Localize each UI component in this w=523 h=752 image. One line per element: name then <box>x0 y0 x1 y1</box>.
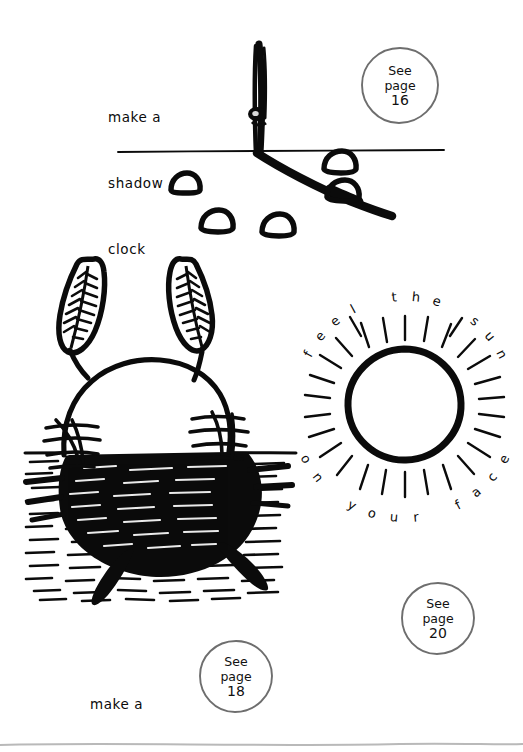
badge-see-label: See <box>224 654 247 669</box>
sun-caption-letter: u <box>389 510 399 526</box>
shadow-clock-label-line3: clock <box>108 238 163 260</box>
page-canvas: make a shadow clock make a shadow sculpt… <box>0 0 523 752</box>
stone-icon <box>201 210 233 232</box>
stone-icon <box>171 173 200 193</box>
horizon-line <box>118 150 444 152</box>
stick-icon <box>248 44 266 153</box>
badge-page-number: 18 <box>227 684 245 699</box>
stone-icon <box>262 214 294 236</box>
badge-page-label: page <box>220 669 251 684</box>
shadow-sculpture-illustration <box>25 259 296 605</box>
shadow-clock-label: make a shadow clock <box>108 62 163 304</box>
badge-page-label: page <box>422 611 453 626</box>
stone-icon <box>324 151 356 173</box>
shadow-sculpture-label: make a shadow sculpture <box>90 637 158 752</box>
page-edge-line <box>0 744 523 745</box>
badge-see-label: See <box>388 63 411 78</box>
shadow-clock-label-line2: shadow <box>108 172 163 194</box>
see-page-18-badge[interactable]: See page 18 <box>200 640 272 712</box>
badge-see-label: See <box>426 596 449 611</box>
badge-page-number: 20 <box>429 626 447 641</box>
sun-caption-letter: h <box>411 289 421 305</box>
badge-page-label: page <box>384 78 415 93</box>
see-page-16-badge[interactable]: See page 16 <box>362 47 438 123</box>
rock-outline <box>64 360 231 455</box>
sun-icon <box>305 316 504 497</box>
badge-page-number: 16 <box>391 93 409 108</box>
shadow-clock-label-line1: make a <box>108 106 163 128</box>
shadow-sculpture-label-line1: make a <box>90 691 158 718</box>
leaf-icon <box>59 259 105 378</box>
see-page-20-badge[interactable]: See page 20 <box>402 582 474 654</box>
